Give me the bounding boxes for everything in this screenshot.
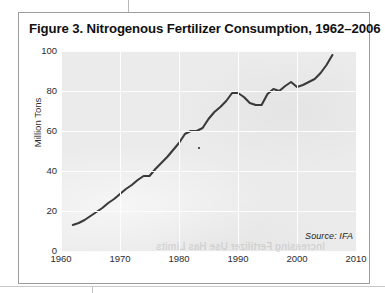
gridline-horizontal <box>61 211 356 212</box>
gridline-horizontal <box>61 171 356 172</box>
figure-card: Figure 3. Nitrogenous Fertilizer Consump… <box>18 12 370 284</box>
y-axis-title: Million Tons <box>32 63 43 183</box>
y-tick-label: 20 <box>21 206 57 216</box>
source-note: Source: IFA <box>305 231 353 241</box>
x-tick-label: 2000 <box>273 254 321 264</box>
x-tick-label: 1970 <box>96 254 144 264</box>
gridline-vertical <box>179 51 180 251</box>
plot-area <box>61 51 356 251</box>
page-bleed-rule-bottom <box>0 286 385 287</box>
series-line-nitrogenous-fertilizer <box>73 55 333 225</box>
page-bleed-rule-bottom-vertical <box>92 287 93 293</box>
gridline-horizontal <box>61 91 356 92</box>
data-line-chart <box>61 51 356 251</box>
gridline-vertical <box>297 51 298 251</box>
gridline-vertical <box>61 51 62 251</box>
gridline-vertical <box>238 51 239 251</box>
gridline-vertical <box>356 51 357 251</box>
x-axis-tick-labels: 196019701980199020002010 <box>61 254 356 268</box>
x-tick-label: 1980 <box>155 254 203 264</box>
gridline-vertical <box>120 51 121 251</box>
x-tick-label: 1960 <box>37 254 85 264</box>
x-tick-label: 2010 <box>332 254 380 264</box>
gridline-horizontal <box>61 51 356 52</box>
gridline-horizontal <box>61 251 356 252</box>
figure-title: Figure 3. Nitrogenous Fertilizer Consump… <box>29 21 369 36</box>
gridline-horizontal <box>61 131 356 132</box>
x-tick-label: 1990 <box>214 254 262 264</box>
scan-speck-artifact <box>198 147 200 149</box>
y-tick-label: 100 <box>21 46 57 56</box>
